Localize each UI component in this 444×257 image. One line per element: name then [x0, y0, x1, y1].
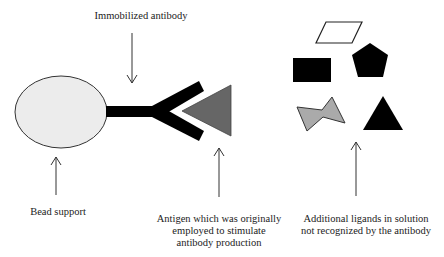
- antigen-label-line2: employed to stimulate: [147, 225, 291, 237]
- ligands-label-line1: Additional ligands in solution: [296, 213, 436, 225]
- arrow-up-icon: [351, 142, 361, 196]
- bead-support-shape: [15, 76, 107, 148]
- ligands-label-line2: not recognized by the antibody: [296, 225, 436, 237]
- ligands-label: Additional ligands in solution not recog…: [296, 213, 436, 237]
- antigen-label: Antigen which was originally employed to…: [147, 213, 291, 249]
- arrow-up-icon: [214, 148, 224, 197]
- ligand-rectangle: [293, 58, 331, 82]
- antigen-label-line3: antibody production: [147, 237, 291, 249]
- antibody-stem: [106, 106, 158, 117]
- arrow-down-icon: [127, 33, 137, 83]
- ligand-triangle: [363, 96, 403, 130]
- ligand-pentagon: [352, 43, 388, 77]
- immobilized-antibody-label: Immobilized antibody: [88, 10, 194, 22]
- diagram-canvas: Immobilized antibody Bead support Antige…: [0, 0, 444, 257]
- ligand-parallelogram: [316, 22, 362, 43]
- bead-support-label: Bead support: [20, 206, 96, 218]
- ligand-bowtie: [297, 97, 345, 131]
- arrow-up-icon: [51, 157, 61, 195]
- antigen-label-line1: Antigen which was originally: [147, 213, 291, 225]
